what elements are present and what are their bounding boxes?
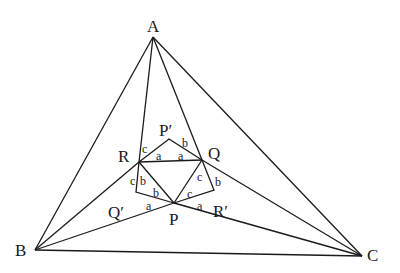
- svg-text:b: b: [153, 186, 159, 200]
- label-p: P: [169, 210, 178, 229]
- svg-text:c: c: [187, 187, 192, 201]
- svg-text:c: c: [142, 142, 147, 156]
- svg-text:c: c: [130, 174, 135, 188]
- label-q-prime: Q′: [108, 203, 124, 222]
- vertex-labels: A B C R Q P P′ Q′ R′: [15, 17, 378, 265]
- label-a: A: [147, 17, 160, 36]
- label-b: B: [15, 241, 26, 260]
- svg-text:b: b: [182, 136, 188, 150]
- triangle-abc: [35, 37, 362, 256]
- svg-text:a: a: [178, 149, 184, 163]
- svg-text:b: b: [215, 175, 221, 189]
- svg-text:a: a: [156, 149, 162, 163]
- label-q: Q: [208, 144, 220, 163]
- svg-text:a: a: [146, 199, 152, 213]
- svg-text:c: c: [197, 170, 202, 184]
- cevian-lines: [35, 37, 362, 256]
- label-p-prime: P′: [159, 121, 172, 140]
- label-r: R: [118, 147, 130, 166]
- svg-text:b: b: [140, 174, 146, 188]
- label-c: C: [367, 246, 378, 265]
- svg-text:a: a: [197, 199, 203, 213]
- label-r-prime: R′: [213, 202, 228, 221]
- geometry-diagram: A B C R Q P P′ Q′ R′ c a a b c b b c b c…: [0, 0, 400, 273]
